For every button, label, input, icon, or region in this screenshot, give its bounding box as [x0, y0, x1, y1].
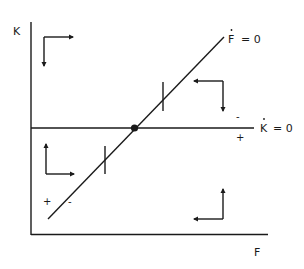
- y-axis-label: K: [13, 25, 21, 38]
- arrow-bottom-left-icon: [46, 144, 74, 174]
- dot-accent-icon: [231, 29, 233, 31]
- k-dot-zero-label: K = 0: [260, 118, 293, 135]
- sign-f-dot-left: +: [43, 196, 51, 207]
- sign-f-dot-right: -: [68, 196, 72, 207]
- sign-k-dot-above: -: [236, 111, 240, 122]
- f-dot-zero-label: F = 0: [228, 29, 261, 46]
- x-axis-label: F: [254, 246, 260, 259]
- arrow-top-left-icon: [44, 37, 73, 66]
- k-dot-zero-label-eq: = 0: [273, 122, 293, 135]
- f-dot-zero-label-var: F: [228, 33, 234, 46]
- phase-diagram: K F K = 0 F = 0 - + + -: [0, 0, 304, 269]
- k-dot-zero-label-var: K: [260, 122, 268, 135]
- sign-k-dot-below: +: [236, 132, 244, 143]
- equilibrium-point: [131, 124, 138, 131]
- arrow-top-right-icon: [194, 81, 223, 111]
- dot-accent-icon: [263, 118, 265, 120]
- arrow-bottom-right-icon: [194, 189, 223, 219]
- f-dot-zero-label-eq: = 0: [241, 33, 261, 46]
